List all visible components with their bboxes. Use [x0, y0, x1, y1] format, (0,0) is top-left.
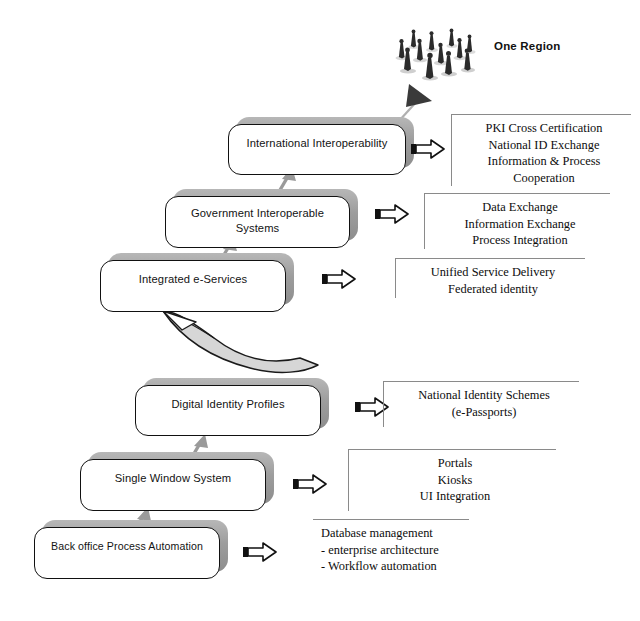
one-region-caption: One Region — [494, 40, 561, 52]
people-group-icon — [396, 29, 476, 81]
annotation-integrated-e-services: Unified Service Delivery Federated ident… — [395, 258, 585, 297]
stage-label-single-window-system: Single Window System — [81, 471, 265, 486]
right-arrow-outline-icon-1 — [411, 138, 445, 160]
right-arrow-outline-icon-2 — [375, 203, 409, 225]
stage-label-government-interoperable-systems: Government Interoperable Systems — [166, 206, 349, 236]
annotation-government-interoperable-systems: Data Exchange Information Exchange Proce… — [424, 193, 610, 249]
stage-box-integrated-e-services[interactable]: Integrated e-Services — [100, 260, 286, 312]
stage-label-international-interoperability: International Interoperability — [229, 136, 405, 151]
diagram-canvas: One Region International Interoperabilit… — [0, 0, 640, 621]
annotation-single-window-system: Portals Kiosks UI Integration — [348, 449, 556, 505]
annotation-text-4: National Identity Schemes (e-Passports) — [383, 381, 579, 420]
stage-box-government-interoperable-systems[interactable]: Government Interoperable Systems — [165, 196, 350, 248]
curved-swoosh-arrow-icon — [163, 311, 318, 372]
right-arrow-outline-icon-6 — [243, 541, 277, 563]
stage-box-digital-identity-profiles[interactable]: Digital Identity Profiles — [135, 385, 321, 436]
annotation-text-1: PKI Cross Certification National ID Exch… — [451, 114, 631, 186]
annotation-text-6: Database management - enterprise archite… — [313, 519, 469, 575]
stage-label-integrated-e-services: Integrated e-Services — [101, 272, 285, 287]
stage-box-back-office-process-automation[interactable]: Back office Process Automation — [34, 527, 220, 579]
stage-label-digital-identity-profiles: Digital Identity Profiles — [136, 397, 320, 412]
right-arrow-outline-icon-3 — [322, 268, 356, 290]
right-arrow-outline-icon-5 — [293, 473, 327, 495]
stage-box-international-interoperability[interactable]: International Interoperability — [228, 124, 406, 175]
annotation-text-3: Unified Service Delivery Federated ident… — [395, 258, 585, 297]
annotation-text-2: Data Exchange Information Exchange Proce… — [424, 193, 610, 249]
stage-box-single-window-system[interactable]: Single Window System — [80, 459, 266, 511]
annotation-digital-identity-profiles: National Identity Schemes (e-Passports) — [383, 381, 579, 420]
stage-label-back-office-process-automation: Back office Process Automation — [35, 539, 219, 554]
annotation-back-office-process-automation: Database management - enterprise archite… — [313, 519, 469, 575]
annotation-text-5: Portals Kiosks UI Integration — [348, 449, 556, 505]
annotation-international-interoperability: PKI Cross Certification National ID Exch… — [451, 114, 631, 186]
